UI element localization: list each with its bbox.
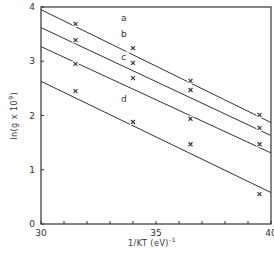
x-tick-label: 30 — [35, 228, 47, 238]
y-axis-label: ln(g x 109) — [7, 81, 19, 151]
y-tick-label: 3 — [29, 56, 35, 66]
y-tick-label: 2 — [29, 111, 35, 121]
x-tick-label: 40 — [265, 228, 274, 238]
series-d: d — [41, 81, 271, 197]
chart-canvas: 30354001234 abcd — [0, 0, 274, 257]
fit-line — [41, 28, 271, 136]
x-axis-label-sup: -1 — [169, 236, 176, 243]
y-axis-label-sup: 9 — [7, 95, 14, 99]
x-axis-label: 1/KT (eV)-1 — [128, 236, 176, 248]
y-axis-label-close: ) — [10, 92, 19, 96]
x-axis-label-text: 1/KT (eV) — [128, 239, 169, 248]
series-label: a — [121, 13, 127, 23]
series-label: d — [121, 94, 127, 104]
series-label: b — [121, 29, 127, 39]
y-tick-label: 1 — [29, 165, 35, 175]
series-label: c — [121, 52, 126, 62]
y-axis-label-text: ln(g x 10 — [10, 100, 19, 140]
y-tick-label: 4 — [29, 2, 35, 12]
data-series: abcd — [41, 10, 271, 197]
series-b: b — [41, 28, 271, 136]
y-tick-label: 0 — [29, 219, 35, 229]
